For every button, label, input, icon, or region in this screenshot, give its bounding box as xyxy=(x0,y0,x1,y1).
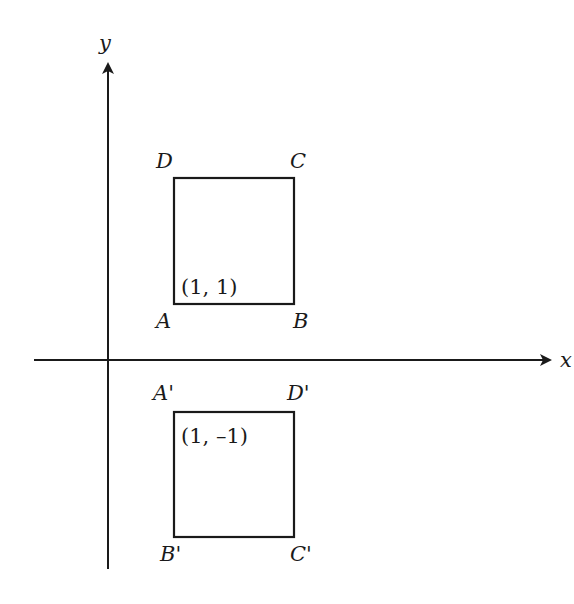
reflection-diagram: x y D C A B (1, 1) A' D' B' C' (1, –1) xyxy=(0,0,574,604)
vertex-c-prime-label: C' xyxy=(290,542,312,566)
vertex-d-prime-label: D' xyxy=(286,381,310,405)
vertex-a-prime-label: A' xyxy=(151,381,174,405)
vertex-a-label: A xyxy=(154,309,171,333)
vertex-d-label: D xyxy=(155,149,173,173)
vertex-b-prime-label: B' xyxy=(159,542,181,566)
vertex-c-label: C xyxy=(290,149,306,173)
point-a-prime-coordinate: (1, –1) xyxy=(181,424,248,448)
y-axis-label: y xyxy=(98,31,112,55)
x-axis-label: x xyxy=(560,348,572,372)
point-a-coordinate: (1, 1) xyxy=(181,275,237,299)
vertex-b-label: B xyxy=(292,309,308,333)
